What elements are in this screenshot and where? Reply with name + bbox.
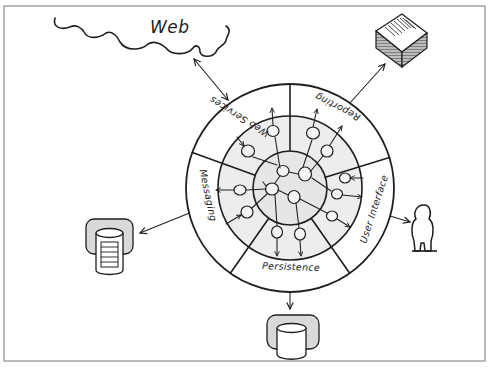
inner-core — [253, 151, 327, 225]
web-label: Web — [150, 17, 190, 37]
segment-label-persistence: Persistence — [262, 260, 320, 273]
architecture-diagram: Web — [0, 0, 490, 378]
architecture-circle: Web Services Reporting User Interface Pe… — [186, 84, 394, 292]
